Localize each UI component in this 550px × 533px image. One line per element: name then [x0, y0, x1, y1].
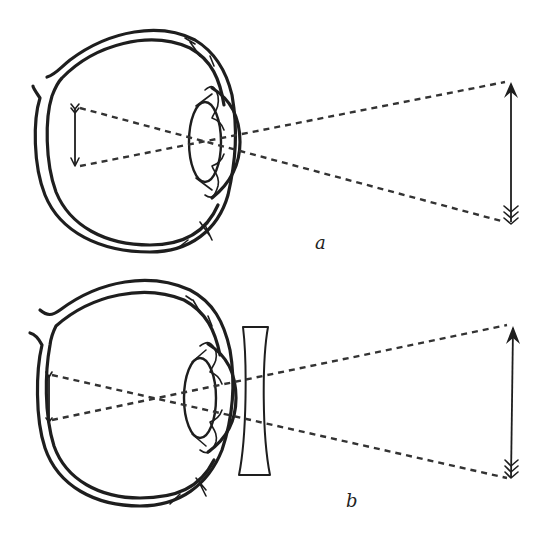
image-arrow-a — [71, 104, 79, 166]
object-arrow-a — [504, 82, 518, 224]
panel-label-b: b — [346, 490, 358, 511]
myopia-diagram: a b — [0, 0, 550, 533]
eyeball-b — [30, 280, 236, 506]
panel-a — [33, 30, 518, 252]
panel-label-a: a — [315, 232, 326, 253]
rays-a — [80, 82, 505, 222]
concave-lens — [239, 327, 270, 475]
crystalline-lens-b — [184, 358, 216, 438]
object-arrow-b — [505, 326, 520, 478]
eyeball-a — [33, 30, 240, 252]
rays-b — [52, 325, 507, 478]
crystalline-lens-a — [189, 102, 221, 182]
panel-b — [30, 280, 520, 506]
